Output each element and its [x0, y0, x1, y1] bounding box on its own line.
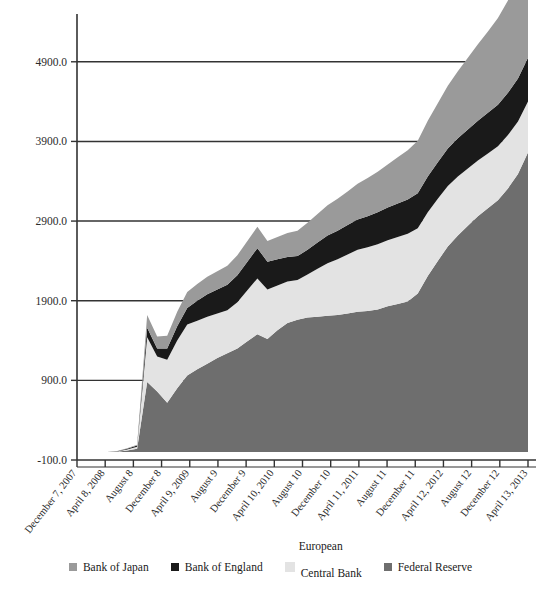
y-tick-label: 2900.0 [35, 215, 67, 227]
legend-swatch-icon [384, 563, 392, 571]
legend-ecb-first-line: European [299, 540, 343, 552]
y-tick-label: 4900.0 [35, 56, 67, 68]
y-tick-label: 900.0 [41, 374, 67, 386]
legend-item[interactable]: Federal Reserve [384, 561, 472, 574]
y-tick-label: 1900.0 [35, 295, 67, 307]
legend-label: Bank of England [185, 561, 263, 574]
legend-swatch-icon [69, 563, 77, 571]
y-axis-tick-labels: -100.0900.01900.02900.03900.04900.0 [35, 56, 77, 466]
legend-item[interactable]: Bank of England [171, 561, 263, 574]
y-tick-label: 3900.0 [35, 135, 67, 147]
area-series-group [77, 0, 528, 452]
legend-swatch-icon [285, 562, 295, 572]
legend-items-row: Bank of JapanBank of EnglandEuropeanCent… [0, 556, 541, 578]
legend-label: Central Bank [301, 567, 362, 580]
y-tick-label: -100.0 [37, 454, 67, 466]
chart-legend: European Bank of JapanBank of EnglandEur… [0, 538, 541, 586]
chart-canvas: -100.0900.01900.02900.03900.04900.0 Dece… [0, 0, 541, 594]
legend-label: Federal Reserve [398, 561, 472, 574]
legend-item[interactable]: Bank of Japan [69, 561, 149, 574]
x-axis-ticks [77, 460, 528, 467]
legend-item[interactable]: EuropeanCentral Bank [285, 554, 362, 580]
x-tick-label: December 7, 2007 [22, 467, 78, 535]
x-axis-tick-labels: December 7, 2007April 8, 2008August 8Dec… [22, 467, 529, 535]
legend-label: Bank of Japan [83, 561, 149, 574]
legend-swatch-icon [171, 563, 179, 571]
stacked-area-chart: -100.0900.01900.02900.03900.04900.0 Dece… [0, 0, 541, 594]
